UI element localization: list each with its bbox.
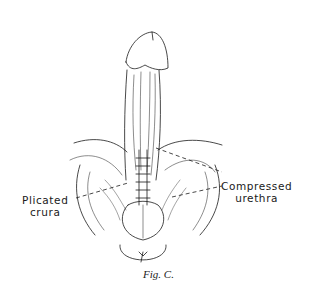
label-plicated-crura: Plicated crura — [22, 194, 68, 218]
leader-line-plicated-crura — [76, 183, 128, 198]
leader-line-compressed-urethra-upper — [156, 148, 222, 172]
label-plicated-line1: Plicated — [22, 194, 68, 206]
label-plicated-line2: crura — [22, 206, 68, 218]
label-compressed-line2: urethra — [221, 192, 292, 204]
figure-canvas: Plicated crura Compressed urethra Fig. C… — [0, 0, 317, 303]
figure-caption: Fig. C. — [0, 268, 317, 280]
label-compressed-urethra: Compressed urethra — [221, 180, 292, 204]
label-compressed-line1: Compressed — [221, 180, 292, 192]
leader-line-compressed-urethra-lower — [172, 186, 222, 197]
anatomical-illustration — [0, 0, 317, 303]
